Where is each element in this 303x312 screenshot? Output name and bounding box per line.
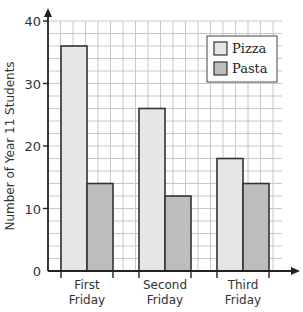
bar-chart: 010203040 FirstFridaySecondFridayThirdFr… [0,0,303,312]
bar-pizza [217,159,243,272]
y-tick-label: 20 [24,139,41,154]
legend-swatch-pasta [214,62,227,75]
x-category-label: Second [143,278,187,292]
x-category-label: Third [227,278,259,292]
legend: PizzaPasta [207,36,277,82]
y-tick-label: 10 [24,202,41,217]
legend-swatch-pizza [214,42,227,55]
legend-label-pizza: Pizza [232,41,267,56]
x-axis-arrow-icon [291,267,300,275]
x-category-label: Friday [147,293,183,307]
x-category-label: Friday [69,293,105,307]
y-axis-title: Number of Year 11 Students [3,61,17,230]
y-axis-arrow-icon [44,8,52,17]
bar-pasta [243,184,269,272]
legend-label-pasta: Pasta [232,61,268,76]
y-ticks: 010203040 [24,14,48,279]
x-categories: FirstFridaySecondFridayThirdFriday [69,278,261,307]
y-tick-label: 40 [24,14,41,29]
bar-pizza [61,46,87,271]
bar-pasta [87,184,113,272]
bar-pizza [139,109,165,272]
x-category-label: First [74,278,100,292]
x-category-label: Friday [225,293,261,307]
bar-pasta [165,196,191,271]
y-tick-label: 30 [24,77,41,92]
y-tick-label: 0 [33,264,41,279]
